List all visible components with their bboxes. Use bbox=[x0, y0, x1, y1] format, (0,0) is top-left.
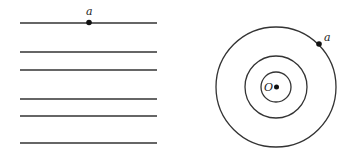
label-a-right: a bbox=[324, 31, 331, 44]
point-a-left bbox=[86, 20, 92, 26]
parallel-lines-figure bbox=[20, 23, 157, 143]
label-a-left: a bbox=[86, 5, 93, 18]
point-a-right bbox=[316, 41, 322, 47]
diagram: a O a bbox=[0, 0, 351, 151]
center-point-O bbox=[274, 85, 279, 90]
label-O: O bbox=[264, 81, 273, 94]
